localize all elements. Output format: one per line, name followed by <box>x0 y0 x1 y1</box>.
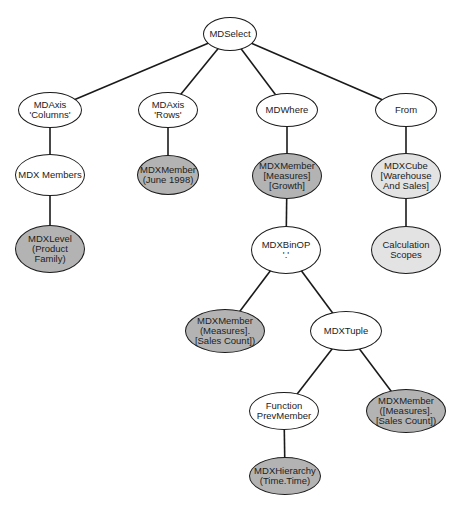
edge-mdselect-to-from <box>230 34 406 110</box>
node-label: From <box>395 105 417 115</box>
node-calculation-scopes: Calculation Scopes <box>371 226 441 274</box>
node-label: Calculation Scopes <box>383 240 430 260</box>
node-label: MDXTuple <box>324 326 369 336</box>
node-mdxlevel: MDXLevel (Product Family) <box>15 225 85 273</box>
node-label: MDXCube [Warehouse And Sales] <box>381 161 432 191</box>
node-label: MDAxis 'Rows' <box>152 100 185 120</box>
node-label: MDSelect <box>209 29 250 39</box>
node-mdxtuple: MDXTuple <box>310 311 382 351</box>
node-mdxcube: MDXCube [Warehouse And Sales] <box>371 153 441 199</box>
node-label: MDXMember (Measures]. [Sales Count]) <box>195 316 255 346</box>
node-mdxbinop: MDXBinOP '.' <box>251 226 321 274</box>
node-mdaxis-columns: MDAxis 'Columns' <box>18 92 82 128</box>
node-mdwhere: MDWhere <box>256 93 318 127</box>
node-mdxmember-june: MDXMember (June 1998) <box>137 155 199 195</box>
node-mdxmember-salescount-2: MDXMember ([Measures]. [Sales Count]) <box>366 389 446 433</box>
node-label: MDXMember ([Measures]. [Sales Count]) <box>376 396 436 426</box>
node-mdx-members: MDX Members <box>15 154 85 196</box>
node-mdxmember-salescount-1: MDXMember (Measures]. [Sales Count]) <box>185 309 265 353</box>
node-mdxmember-growth: MDXMember [Measures] [Growth] <box>252 153 322 199</box>
node-label: MDXMember [Measures] [Growth] <box>259 161 315 191</box>
node-from: From <box>375 93 437 127</box>
edge-mdselect-to-mdaxis-columns <box>50 34 230 110</box>
node-mdaxis-rows: MDAxis 'Rows' <box>138 92 198 128</box>
node-label: MDAxis 'Columns' <box>29 100 70 120</box>
node-label: MDXBinOP '.' <box>262 240 311 260</box>
node-label: MDXHierarchy (Time.Time) <box>254 466 316 486</box>
node-label: MDXLevel (Product Family) <box>28 234 72 264</box>
node-function-prevmember: Function PrevMember <box>249 392 319 430</box>
node-label: MDXMember (June 1998) <box>140 165 196 185</box>
node-mdxhierarchy: MDXHierarchy (Time.Time) <box>249 457 321 495</box>
node-label: MDX Members <box>18 170 81 180</box>
node-mdselect: MDSelect <box>203 17 257 51</box>
node-label: Function PrevMember <box>257 401 311 421</box>
node-label: MDWhere <box>266 105 309 115</box>
